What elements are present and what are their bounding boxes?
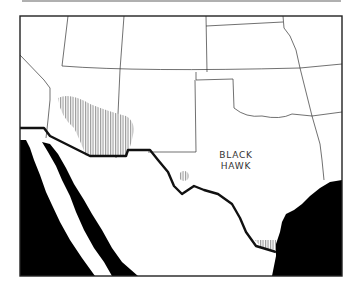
species-label: BLACK HAWK — [212, 150, 260, 172]
range-west-texas — [179, 171, 189, 181]
range-map — [0, 0, 358, 293]
species-label-line2: HAWK — [212, 161, 260, 172]
species-label-line1: BLACK — [212, 150, 260, 161]
